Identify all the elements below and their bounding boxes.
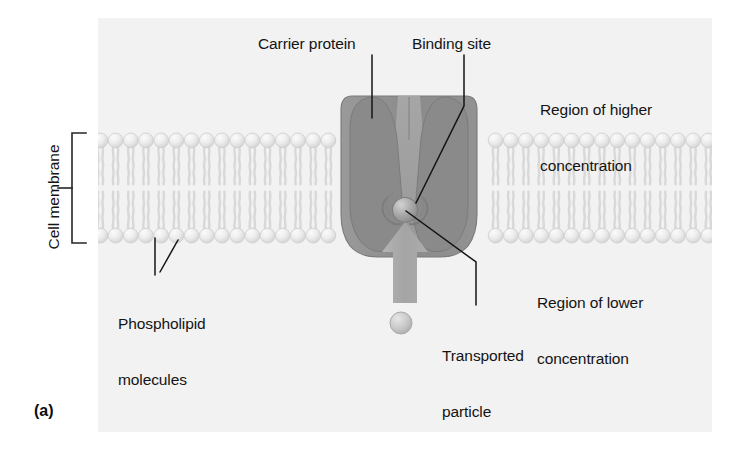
phospholipid-molecule — [503, 133, 518, 184]
phospholipid-molecule — [291, 192, 306, 243]
phospholipid-molecule — [215, 192, 230, 243]
phospholipid-molecule — [108, 133, 123, 184]
label-region-higher-line1: Region of higher — [540, 101, 652, 120]
label-phospholipid-molecules: Phospholipid molecules — [118, 278, 206, 426]
phospholipid-molecule — [184, 192, 199, 243]
phospholipid-molecule — [93, 192, 108, 243]
phospholipid-molecule — [199, 192, 214, 243]
label-binding-site: Binding site — [412, 35, 491, 54]
label-region-higher-line2: concentration — [540, 157, 652, 176]
phospholipid-molecule — [108, 192, 123, 243]
label-region-higher-concentration: Region of higher concentration — [540, 64, 652, 212]
phospholipid-molecule — [306, 133, 321, 184]
phospholipid-molecule — [655, 192, 670, 243]
phospholipid-molecule — [488, 192, 503, 243]
phospholipid-molecule — [93, 133, 108, 184]
phospholipid-molecule — [701, 192, 716, 243]
phospholipid-molecule — [123, 133, 138, 184]
phospholipid-molecule — [184, 133, 199, 184]
phospholipid-molecule — [686, 133, 701, 184]
phospholipid-molecule — [245, 192, 260, 243]
label-transported-particle: Transported particle — [442, 310, 524, 454]
phospholipid-molecule — [260, 133, 275, 184]
phospholipid-molecule — [154, 133, 169, 184]
phospholipid-molecule — [275, 133, 290, 184]
phospholipid-molecule — [488, 133, 503, 184]
bound-transported-particle — [393, 198, 418, 223]
phospholipid-molecule — [275, 192, 290, 243]
phospholipid-molecule — [701, 133, 716, 184]
label-region-lower-line1: Region of lower — [537, 294, 643, 313]
phospholipid-molecule — [245, 133, 260, 184]
phospholipid-molecule — [321, 192, 336, 243]
phospholipid-molecule — [260, 192, 275, 243]
free-transported-particle — [390, 312, 412, 334]
leader-phospholipid-head — [160, 240, 178, 272]
phospholipid-molecule — [169, 192, 184, 243]
label-cell-membrane: Cell membrane — [45, 127, 63, 267]
phospholipid-molecule — [154, 192, 169, 243]
phospholipid-molecule — [199, 133, 214, 184]
label-transported-line1: Transported — [442, 347, 524, 366]
phospholipid-molecule — [230, 133, 245, 184]
phospholipid-molecule — [291, 133, 306, 184]
phospholipid-molecule — [321, 133, 336, 184]
phospholipid-molecule — [716, 133, 731, 184]
phospholipid-molecule — [655, 133, 670, 184]
phospholipid-molecule — [671, 192, 686, 243]
label-phospholipid-line2: molecules — [118, 371, 206, 390]
phospholipid-molecule — [519, 192, 534, 243]
label-transported-line2: particle — [442, 403, 524, 422]
figure-diffusion-carrier-protein: Carrier protein Binding site Region of h… — [0, 0, 748, 454]
phospholipid-molecule — [139, 192, 154, 243]
phospholipid-molecule — [123, 192, 138, 243]
phospholipid-molecule — [139, 133, 154, 184]
label-carrier-protein: Carrier protein — [258, 35, 356, 54]
phospholipid-molecule — [306, 192, 321, 243]
phospholipid-molecule — [671, 133, 686, 184]
label-region-lower-line2: concentration — [537, 350, 643, 369]
phospholipid-molecule — [215, 133, 230, 184]
phospholipid-molecule — [686, 192, 701, 243]
phospholipid-molecule — [78, 192, 93, 243]
phospholipid-molecule — [169, 133, 184, 184]
label-region-lower-concentration: Region of lower concentration — [537, 257, 643, 405]
phospholipid-molecule — [78, 133, 93, 184]
panel-letter: (a) — [34, 402, 54, 420]
phospholipid-molecule — [230, 192, 245, 243]
phospholipid-molecule — [716, 192, 731, 243]
phospholipid-molecule — [503, 192, 518, 243]
label-phospholipid-line1: Phospholipid — [118, 315, 206, 334]
phospholipid-molecule — [519, 133, 534, 184]
